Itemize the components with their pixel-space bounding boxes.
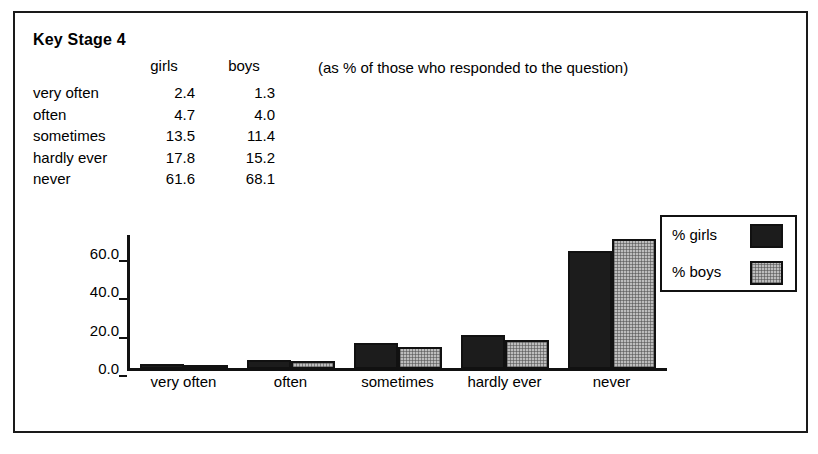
y-axis-tick-mark	[119, 298, 127, 300]
y-axis-tick-mark	[119, 337, 127, 339]
y-axis-tick-label: 40.0	[57, 283, 119, 300]
bar-boys	[398, 347, 442, 369]
y-axis-line	[127, 235, 130, 371]
x-axis-category-label: hardly ever	[451, 373, 558, 390]
bar-boys	[505, 340, 549, 369]
x-axis-category-label: often	[237, 373, 344, 390]
x-axis-category-label: very often	[130, 373, 237, 390]
legend-item-girls: % girls	[662, 217, 795, 255]
bar-group	[354, 235, 442, 369]
x-axis-category-label: never	[558, 373, 665, 390]
legend-swatch-boys-icon	[750, 261, 783, 285]
bar-group	[247, 235, 335, 369]
bar-group	[461, 235, 549, 369]
y-axis-tick-mark	[119, 260, 127, 262]
bar-boys	[612, 239, 656, 369]
legend-label-boys: % boys	[672, 263, 721, 280]
bar-group	[568, 235, 656, 369]
bar-group	[140, 235, 228, 369]
figure-panel: Key Stage 4 (as % of those who responded…	[13, 11, 808, 433]
bar-boys	[291, 361, 335, 369]
bar-girls	[354, 343, 398, 369]
bar-girls	[247, 360, 291, 369]
y-axis-tick-label: 0.0	[57, 360, 119, 377]
chart-legend: % girls % boys	[660, 215, 797, 292]
legend-label-girls: % girls	[672, 226, 717, 243]
y-axis-tick-label: 60.0	[57, 245, 119, 262]
bar-girls	[140, 364, 184, 369]
legend-swatch-girls-icon	[750, 224, 783, 248]
bar-girls	[461, 335, 505, 369]
y-axis-tick-label: 20.0	[57, 322, 119, 339]
bar-boys	[184, 365, 228, 369]
legend-item-boys: % boys	[662, 254, 795, 292]
y-axis-tick-mark	[119, 375, 127, 377]
bar-girls	[568, 251, 612, 369]
x-axis-category-label: sometimes	[344, 373, 451, 390]
